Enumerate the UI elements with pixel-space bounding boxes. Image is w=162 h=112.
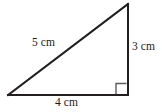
triangle-hypotenuse-line [8,4,128,95]
vertical-side-length-label: 3 cm [132,41,155,53]
base-side-length-label: 4 cm [55,97,78,109]
right-angle-marker-icon [116,84,127,95]
right-triangle-figure: 5 cm 3 cm 4 cm [0,0,162,112]
hypotenuse-length-label: 5 cm [32,37,55,49]
triangle-drawing [0,0,162,112]
